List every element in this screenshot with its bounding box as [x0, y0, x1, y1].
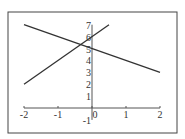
x-tick-label: 0: [93, 109, 98, 120]
x-tick-label: -2: [20, 109, 28, 120]
y-tick-label: 5: [86, 44, 91, 55]
x-tick-label: 1: [124, 109, 129, 120]
y-tick-label: 2: [86, 79, 91, 90]
y-tick-label: 7: [86, 20, 91, 31]
y-tick-label: 1: [86, 91, 91, 102]
x-tick-label: 2: [158, 109, 163, 120]
y-tick-label: 4: [86, 55, 91, 66]
y-tick-label: 3: [86, 67, 91, 78]
x-tick-label: -1: [54, 109, 62, 120]
series-line-2: [24, 25, 109, 84]
axes: [24, 25, 160, 120]
y-tick-label: -1: [83, 115, 91, 126]
chart: -2-1012-11234567: [0, 0, 185, 139]
